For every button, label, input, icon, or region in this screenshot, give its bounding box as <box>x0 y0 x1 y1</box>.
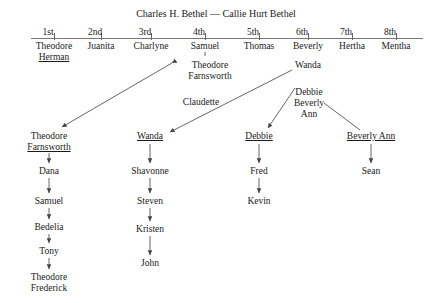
name-line: Hertha <box>339 41 365 52</box>
name-line: Frederick <box>31 283 67 294</box>
name-line: Kevin <box>247 196 270 207</box>
descendant-theodore-frederick: TheodoreFrederick <box>31 272 67 294</box>
ordinal-label-4: 4th <box>193 27 205 37</box>
name-line: Wanda <box>137 131 163 142</box>
name-line: Herman <box>36 52 72 63</box>
ordinal-label-3: 3rd <box>139 27 152 37</box>
name-line: Steven <box>137 196 163 207</box>
name-line: Theodore <box>36 41 72 52</box>
name-line: Claudette <box>183 97 219 108</box>
name-line: Theodore <box>27 131 70 142</box>
ordinal-label-1: 1st <box>42 27 53 37</box>
name-line: Debbie <box>245 131 272 142</box>
name-line: Tony <box>39 246 58 257</box>
lineage-root-theodore-farnsworth: TheodoreFarnsworth <box>27 131 70 153</box>
ordinal-label-7: 7th <box>340 27 352 37</box>
descendant-john: John <box>141 258 159 269</box>
name-line: Beverly Ann <box>347 131 395 142</box>
connector-beverly-ann <box>324 103 360 130</box>
name-line: Bedelia <box>34 222 63 233</box>
ordinal-tick-6 <box>308 33 309 40</box>
name-line: Debbie <box>294 87 324 98</box>
descendant-shavonne: Shavonne <box>131 166 168 177</box>
name-line: Dana <box>39 166 59 177</box>
ordinal-label-6: 6th <box>296 27 308 37</box>
ordinal-tick-7 <box>352 33 353 40</box>
name-line: Theodore <box>31 272 67 283</box>
ordinal-tick-8 <box>396 33 397 40</box>
child-node-3: Charlyne <box>134 41 169 52</box>
name-line: Ann <box>294 109 324 120</box>
child-node-1: TheodoreHerman <box>36 41 72 63</box>
child-node-4: Samuel <box>191 41 220 52</box>
descendant-kristen: Kristen <box>136 224 164 235</box>
mid-label-debbie-beverly-ann: DebbieBeverlyAnn <box>294 87 324 120</box>
ordinal-tick-4 <box>205 33 206 40</box>
child-node-7: Hertha <box>339 41 365 52</box>
descendant-kevin: Kevin <box>247 196 270 207</box>
name-line: John <box>141 258 159 269</box>
ordinal-label-2: 2nd <box>88 27 102 37</box>
parents-union-title: Charles H. Bethel — Callie Hurt Bethel <box>136 8 296 19</box>
name-line: Farnsworth <box>188 71 231 82</box>
name-line: Charlyne <box>134 41 169 52</box>
mid-label-theodore-farnsworth: TheodoreFarnsworth <box>188 60 231 82</box>
mid-label-wanda: Wanda <box>295 60 321 71</box>
connector-theodore-farnsworth <box>62 63 172 127</box>
child-node-8: Mentha <box>381 41 410 52</box>
descendant-samuel: Samuel <box>35 196 64 207</box>
name-line: Juanita <box>88 41 115 52</box>
child-node-2: Juanita <box>88 41 115 52</box>
name-line: Beverly <box>294 98 324 109</box>
name-line: Mentha <box>381 41 410 52</box>
child-node-5: Thomas <box>244 41 275 52</box>
family-tree-diagram: Charles H. Bethel — Callie Hurt Bethel 1… <box>0 0 432 303</box>
ordinal-tick-1 <box>54 33 55 40</box>
lineage-root-beverly-ann: Beverly Ann <box>347 131 395 142</box>
ordinal-label-8: 8th <box>384 27 396 37</box>
lineage-root-wanda: Wanda <box>137 131 163 142</box>
name-line: Wanda <box>295 60 321 71</box>
name-line: Theodore <box>188 60 231 71</box>
ordinal-label-5: 5th <box>247 27 259 37</box>
name-line: Farnsworth <box>27 142 70 153</box>
name-line: Thomas <box>244 41 275 52</box>
name-line: Beverly <box>293 41 323 52</box>
name-line: Fred <box>250 166 267 177</box>
name-line: Samuel <box>35 196 64 207</box>
descendant-steven: Steven <box>137 196 163 207</box>
lineage-root-debbie: Debbie <box>245 131 272 142</box>
descendant-sean: Sean <box>362 166 380 177</box>
sibling-rule <box>31 38 423 39</box>
child-node-6: Beverly <box>293 41 323 52</box>
descendant-fred: Fred <box>250 166 267 177</box>
name-line: Kristen <box>136 224 164 235</box>
connector-debbie <box>268 88 295 128</box>
name-line: Shavonne <box>131 166 168 177</box>
ordinal-tick-5 <box>259 33 260 40</box>
descendant-tony: Tony <box>39 246 58 257</box>
descendant-dana: Dana <box>39 166 59 177</box>
name-line: Sean <box>362 166 380 177</box>
name-line: Samuel <box>191 41 220 52</box>
descendant-bedelia: Bedelia <box>34 222 63 233</box>
mid-label-claudette: Claudette <box>183 97 219 108</box>
